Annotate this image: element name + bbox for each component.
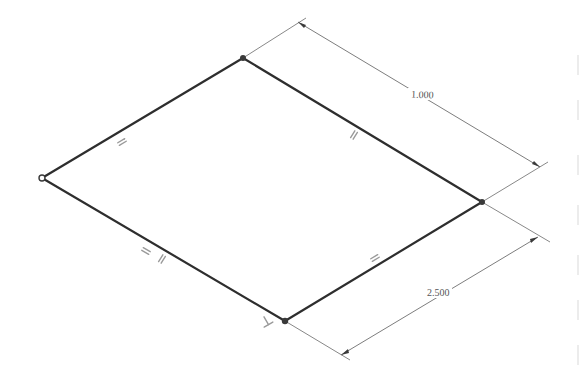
vertex-left[interactable] — [39, 175, 45, 181]
arrowhead-icon — [298, 22, 306, 28]
perpendicular-constraint-icon[interactable] — [260, 314, 273, 327]
extension-line — [482, 202, 550, 242]
arrowhead-icon — [530, 237, 538, 243]
parallel-constraint-icon[interactable] — [351, 131, 358, 139]
sketch-edge-bottom-right[interactable] — [285, 202, 482, 321]
parallel-constraint-icon[interactable] — [371, 255, 379, 262]
dimension-label[interactable]: 2.500 — [427, 287, 450, 298]
parallel-constraint-icon[interactable] — [159, 255, 166, 263]
arrowhead-icon — [341, 349, 349, 355]
dimension-1[interactable]: 1.000 — [243, 18, 548, 202]
sketch-canvas[interactable]: 1.000 2.500 — [0, 0, 580, 383]
sketch-edge-left-bottom[interactable] — [42, 178, 285, 321]
extension-line — [243, 18, 306, 58]
extension-line — [285, 321, 350, 360]
sketch-edge-top-left[interactable] — [42, 58, 243, 178]
vertex-right[interactable] — [479, 199, 485, 205]
dimension-label[interactable]: 1.000 — [411, 89, 434, 101]
vertex-top[interactable] — [240, 55, 246, 61]
parallel-constraint-icon[interactable] — [118, 139, 126, 146]
dimension-2[interactable]: 2.500 — [285, 202, 550, 360]
arrowhead-icon — [532, 161, 540, 167]
coincident-constraint-icon[interactable] — [142, 248, 150, 255]
sketch-edge-top-right[interactable] — [243, 58, 482, 202]
vertex-bottom[interactable] — [282, 318, 288, 324]
extension-line — [482, 162, 548, 202]
